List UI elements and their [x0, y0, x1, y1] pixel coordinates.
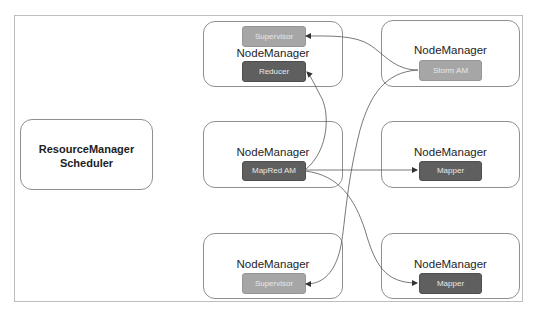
resource-manager-label: ResourceManager — [21, 142, 152, 156]
node-manager-label: NodeManager — [204, 258, 342, 270]
scheduler-label: Scheduler — [21, 156, 152, 170]
node-manager-middle-center: NodeManager MapRed AM — [203, 121, 343, 188]
reducer-component: Reducer — [242, 61, 306, 82]
supervisor-component: Supervisor — [242, 26, 306, 47]
node-manager-label: NodeManager — [382, 258, 519, 270]
storm-am-component: Storm AM — [419, 60, 482, 81]
mapper-component: Mapper — [419, 161, 482, 181]
node-manager-middle-right: NodeManager Mapper — [381, 121, 520, 188]
node-manager-bottom-center: NodeManager Supervisor — [203, 233, 343, 299]
node-manager-label: NodeManager — [204, 146, 342, 158]
node-manager-bottom-right: NodeManager Mapper — [381, 233, 520, 299]
supervisor-component: Supervisor — [242, 273, 306, 294]
node-manager-label: NodeManager — [382, 44, 519, 56]
node-manager-label: NodeManager — [382, 146, 519, 158]
mapper-component: Mapper — [419, 273, 482, 294]
node-manager-top-right: NodeManager Storm AM — [381, 20, 520, 87]
resource-manager-box: ResourceManager Scheduler — [20, 119, 153, 190]
mapred-am-component: MapRed AM — [242, 161, 306, 181]
node-manager-label: NodeManager — [204, 47, 342, 59]
node-manager-top-middle: Supervisor NodeManager Reducer — [203, 21, 343, 87]
